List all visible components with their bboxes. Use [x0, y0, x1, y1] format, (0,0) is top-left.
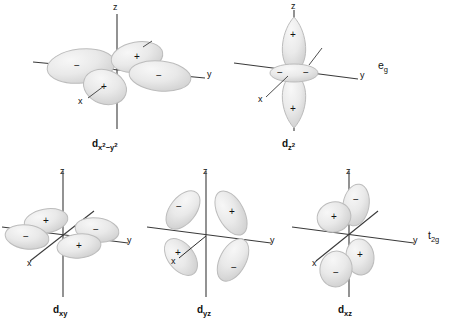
sign-minus-upper-right: − [353, 195, 359, 205]
orbital-dz2: z y x + − − + dz2 eg [230, 0, 452, 163]
axis-label-y: y [413, 236, 418, 245]
axis-label-y: y [270, 236, 275, 245]
sign-minus-torus-left: − [277, 68, 283, 78]
sign-plus-lower-right: + [76, 241, 82, 251]
set-label-eg: eg [378, 60, 388, 74]
lobe-minus-upper-left [159, 185, 207, 236]
orbital-label-sub: xy [59, 309, 67, 318]
sign-plus-lower-left: + [101, 82, 107, 92]
d-orbital-figure: z y x − + + − dx2−y2 [0, 0, 452, 325]
lobe-plus-top [282, 17, 305, 71]
axis-label-y: y [207, 70, 212, 79]
sign-minus-right: − [156, 71, 162, 81]
axis-label-y: y [360, 71, 365, 80]
axis-label-z: z [346, 167, 351, 176]
set-label-eg-sub: g [384, 65, 388, 74]
axis-label-z: z [203, 167, 208, 176]
sign-minus-left: − [23, 232, 29, 242]
axis-label-z: z [113, 3, 118, 12]
axis-y-line [147, 227, 271, 243]
orbital-label-dxy: dxy [53, 305, 67, 318]
orbital-label-dz2: dz2 [282, 139, 295, 152]
sign-minus-lower-right: − [231, 263, 237, 273]
orbital-dxz: z y x + − + − dxz t2g [290, 165, 452, 325]
orbital-label-sub: yz [203, 309, 211, 318]
sign-minus-torus-right: − [303, 68, 309, 78]
orbital-dz2-graphic [230, 0, 452, 163]
axis-label-y: y [127, 236, 132, 245]
set-label-t2g: t2g [428, 230, 439, 244]
sign-plus-top: + [290, 30, 296, 40]
sign-plus-lower-right: + [357, 250, 363, 260]
sign-minus-left: − [74, 61, 80, 71]
axis-label-x: x [258, 95, 263, 104]
sign-minus-lower-left: − [333, 268, 339, 278]
lobe-minus-lower-right [211, 234, 256, 287]
orbital-label-sup2: 2 [114, 142, 117, 148]
axis-label-x: x [27, 259, 32, 268]
orbital-dx2-y2: z y x − + + − dx2−y2 [0, 0, 226, 163]
sign-plus-lower-left: + [175, 248, 181, 258]
lobe-group [158, 185, 255, 287]
orbital-label-dx2-y2: dx2−y2 [92, 139, 118, 152]
sign-plus-upper-left: + [43, 216, 49, 226]
orbital-label-dxz: dxz [338, 305, 352, 318]
orbital-label-sup: 2 [292, 142, 295, 148]
sign-plus-upper-right: + [134, 52, 140, 62]
orbital-label-sub: xz [344, 309, 352, 318]
axis-label-x: x [78, 97, 83, 106]
orbital-dyz: z y x − + + − dyz [145, 165, 305, 325]
sign-minus-upper-left: − [176, 202, 182, 212]
sign-plus-upper-right: + [229, 207, 235, 217]
orbital-label-sub2: −y [106, 143, 115, 152]
sign-minus-right: − [93, 225, 99, 235]
axis-label-x: x [312, 259, 317, 268]
lobe-group [45, 38, 192, 111]
lobe-group [4, 205, 121, 260]
axis-label-z: z [291, 2, 296, 11]
lobe-plus-bottom [282, 75, 305, 128]
lobe-leader [309, 48, 322, 65]
orbital-dyz-graphic [145, 165, 305, 325]
orbital-label-dyz: dyz [197, 305, 211, 318]
lobe-group [313, 182, 376, 290]
orbital-dxy: z y x + − − + dxy [0, 165, 160, 325]
sign-plus-bottom: + [290, 104, 296, 114]
set-label-t2g-sub: 2g [431, 235, 439, 244]
sign-plus-upper-left: + [331, 212, 337, 222]
axis-label-x: x [171, 257, 176, 266]
orbital-dxz-graphic [290, 165, 452, 325]
axis-label-z: z [60, 167, 65, 176]
